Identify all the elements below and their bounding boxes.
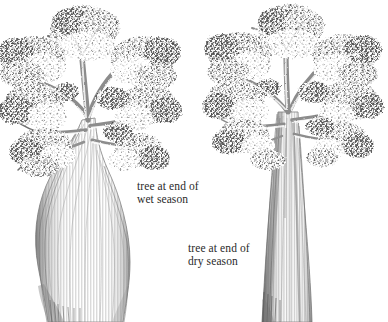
caption-dry-season-line1: tree at end of	[188, 242, 250, 255]
caption-dry-season: tree at end of dry season	[188, 242, 250, 267]
tree-illustration-canvas	[0, 0, 388, 322]
caption-wet-season-line2: wet season	[137, 193, 199, 206]
caption-wet-season: tree at end of wet season	[137, 180, 199, 205]
caption-dry-season-line2: dry season	[188, 255, 250, 268]
caption-wet-season-line1: tree at end of	[137, 180, 199, 193]
illustration-figure: tree at end of wet season tree at end of…	[0, 0, 388, 322]
